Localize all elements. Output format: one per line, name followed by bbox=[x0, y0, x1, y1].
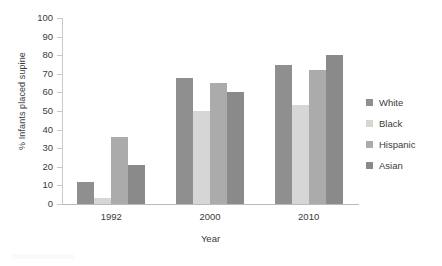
x-axis-tick-label: 2000 bbox=[170, 211, 250, 222]
y-axis-tick-label: 80 bbox=[13, 50, 53, 60]
y-axis-tick-label: 0 bbox=[13, 199, 53, 209]
legend-item[interactable]: Black bbox=[366, 113, 442, 134]
bar bbox=[275, 65, 292, 205]
bar-group bbox=[77, 18, 145, 204]
page-artifact bbox=[12, 254, 74, 259]
bar bbox=[128, 165, 145, 204]
bar bbox=[77, 182, 94, 204]
legend-item-label: Black bbox=[379, 118, 402, 129]
legend-item-label: Asian bbox=[379, 160, 403, 171]
bar bbox=[227, 92, 244, 204]
legend-swatch-icon bbox=[366, 162, 373, 169]
x-axis-title: Year bbox=[62, 233, 359, 244]
bar bbox=[111, 137, 128, 204]
bar bbox=[326, 55, 343, 204]
y-axis-tick-label: 100 bbox=[13, 13, 53, 23]
y-axis-tick-label: 50 bbox=[13, 106, 53, 116]
plot-area bbox=[62, 18, 358, 204]
bar bbox=[176, 78, 193, 204]
bar-group bbox=[275, 18, 343, 204]
legend-item[interactable]: Asian bbox=[366, 155, 442, 176]
y-axis-tick-label: 30 bbox=[13, 143, 53, 153]
bar bbox=[292, 105, 309, 204]
y-axis-tick-mark bbox=[57, 204, 62, 205]
x-axis-line bbox=[62, 204, 359, 205]
legend-item-label: White bbox=[379, 97, 403, 108]
y-axis-tick-label: 40 bbox=[13, 125, 53, 135]
y-axis-tick-label: 60 bbox=[13, 87, 53, 97]
y-axis-title: % Infants placed supine bbox=[17, 16, 27, 186]
bar-chart: % Infants placed supine 0102030405060708… bbox=[0, 0, 442, 266]
bar bbox=[94, 198, 111, 204]
bar bbox=[309, 70, 326, 204]
legend-swatch-icon bbox=[366, 120, 373, 127]
legend-item-label: Hispanic bbox=[379, 139, 415, 150]
y-axis-tick-label: 20 bbox=[13, 162, 53, 172]
y-axis-tick-label: 70 bbox=[13, 69, 53, 79]
y-axis-tick-label: 90 bbox=[13, 32, 53, 42]
legend-item[interactable]: White bbox=[366, 92, 442, 113]
legend-item[interactable]: Hispanic bbox=[366, 134, 442, 155]
bar bbox=[210, 83, 227, 204]
x-axis-tick-label: 1992 bbox=[71, 211, 151, 222]
legend-swatch-icon bbox=[366, 99, 373, 106]
y-axis-tick-label: 10 bbox=[13, 180, 53, 190]
x-axis-tick-label: 2010 bbox=[269, 211, 349, 222]
chart-legend: WhiteBlackHispanicAsian bbox=[366, 92, 442, 176]
bar-group bbox=[176, 18, 244, 204]
bar bbox=[193, 111, 210, 204]
legend-swatch-icon bbox=[366, 141, 373, 148]
